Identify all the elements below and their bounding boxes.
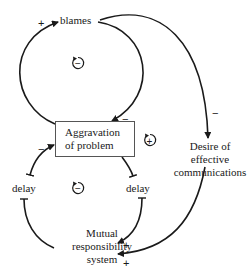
link-aggravation-to-delay-right: [122, 157, 133, 176]
desire-line1: Desire of: [165, 140, 249, 153]
mutual-line3: system: [57, 253, 147, 266]
loop-sign-top: −: [75, 58, 81, 69]
node-aggravation-of-problem: Aggravation of problem: [55, 121, 135, 157]
polarity-sign-desire: −: [212, 108, 218, 119]
link-mutual-to-delay-left: [24, 199, 54, 248]
loop-sign-right: +: [147, 136, 153, 147]
polarity-sign-aggravation-top: −: [122, 114, 128, 125]
mutual-line2: responsibility: [57, 240, 147, 253]
node-delay-left: delay: [12, 182, 36, 195]
link-blames-to-desire: [100, 15, 208, 138]
aggravation-line1: Aggravation: [65, 126, 134, 139]
node-delay-right: delay: [126, 182, 150, 195]
aggravation-line2: of problem: [65, 139, 134, 152]
polarity-sign-mutual-2: +: [123, 258, 129, 269]
loop-sign-bottom: −: [75, 183, 81, 194]
node-desire-of-effective-communications: Desire of effective communications: [165, 140, 249, 179]
loop-marker-balancing-top: −: [71, 56, 85, 70]
polarity-sign-blames: +: [38, 18, 44, 29]
node-mutual-responsibility-system: Mutual responsibility system: [57, 227, 147, 266]
polarity-sign-mutual-1: +: [123, 240, 129, 251]
loop-marker-reinforcing-right: +: [143, 133, 157, 147]
desire-line3: communications: [165, 166, 249, 179]
polarity-sign-aggravation-left: −: [38, 144, 44, 155]
desire-line2: effective: [165, 153, 249, 166]
link-aggravation-to-blames: [20, 22, 58, 124]
link-blames-to-aggravation: [98, 22, 143, 121]
mutual-line1: Mutual: [57, 227, 147, 240]
loop-marker-balancing-bottom: −: [71, 181, 85, 195]
node-blames: blames: [60, 14, 91, 27]
